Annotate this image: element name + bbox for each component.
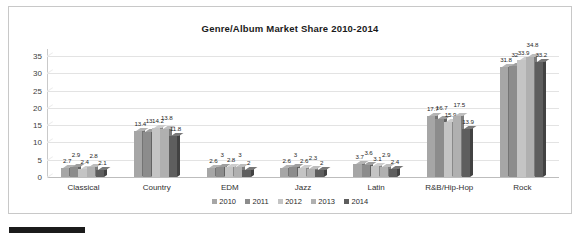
bar-2013-rock[interactable] xyxy=(526,57,534,177)
legend-item-2011[interactable]: 2011 xyxy=(245,197,269,206)
bar-2013-jazz[interactable] xyxy=(307,169,315,177)
legend-item-2013[interactable]: 2013 xyxy=(311,197,335,206)
bar-2012-rock[interactable] xyxy=(517,60,525,177)
legend-swatch-2010 xyxy=(212,199,217,204)
bar-front-face xyxy=(143,132,151,177)
bar-2011-rock[interactable] xyxy=(509,66,517,177)
bar-group-r-b-hip-hop: 17.716.715.917.513.9R&B/Hip-Hop xyxy=(413,49,486,177)
data-label-2011-jazz: 3 xyxy=(294,151,297,158)
bar-2011-latin[interactable] xyxy=(362,165,370,177)
bar-2014-edm[interactable] xyxy=(242,170,250,177)
bar-2011-jazz[interactable] xyxy=(289,167,297,177)
data-label-2010-rock: 31.8 xyxy=(500,56,512,63)
y-tick-label-30: 30 xyxy=(33,69,42,78)
bar-2010-latin[interactable] xyxy=(353,164,361,177)
data-label-2014-country: 11.8 xyxy=(170,125,181,132)
data-label-2012-edm: 2.8 xyxy=(227,156,235,163)
bar-front-face xyxy=(70,167,78,177)
legend-swatch-2011 xyxy=(245,199,250,204)
bar-2012-country[interactable] xyxy=(152,128,160,177)
bar-2011-edm[interactable] xyxy=(216,167,224,177)
data-label-2013-r-b-hip-hop: 17.5 xyxy=(453,101,465,108)
bar-2011-classical[interactable] xyxy=(70,167,78,177)
bar-2013-latin[interactable] xyxy=(380,167,388,177)
bottom-black-bar-artifact xyxy=(9,227,85,233)
data-label-2010-edm: 2.6 xyxy=(209,157,217,164)
bar-front-face xyxy=(280,168,288,177)
bar-front-face xyxy=(78,169,86,177)
bar-2014-country[interactable] xyxy=(169,136,177,177)
data-label-2014-r-b-hip-hop: 13.9 xyxy=(462,118,474,125)
bar-front-face xyxy=(380,167,388,177)
legend-item-2010[interactable]: 2010 xyxy=(212,197,236,206)
bar-2013-edm[interactable] xyxy=(234,167,242,177)
bar-group-edm: 2.632.832EDM xyxy=(193,49,266,177)
bars: 3.73.63.12.92.4 xyxy=(340,49,413,177)
bar-2012-jazz[interactable] xyxy=(298,168,306,177)
bar-2010-country[interactable] xyxy=(134,131,142,177)
bar-2012-classical[interactable] xyxy=(78,169,86,177)
data-label-2010-jazz: 2.6 xyxy=(282,157,290,164)
bar-2010-rock[interactable] xyxy=(500,67,508,177)
x-axis-label-jazz: Jazz xyxy=(295,183,311,192)
legend-label-2011: 2011 xyxy=(252,197,268,206)
bar-front-face xyxy=(234,167,242,177)
bar-2011-r-b-hip-hop[interactable] xyxy=(435,119,443,177)
bar-2010-edm[interactable] xyxy=(207,168,215,177)
bar-front-face xyxy=(169,136,177,177)
x-axis-label-r-b-hip-hop: R&B/Hip-Hop xyxy=(425,183,473,192)
bar-group-classical: 2.72.92.42.82.1Classical xyxy=(47,49,120,177)
bar-front-face xyxy=(87,167,95,177)
data-label-2010-country: 13.4 xyxy=(134,120,146,127)
legend-label-2013: 2013 xyxy=(318,197,335,206)
bars: 2.632.62.32 xyxy=(266,49,339,177)
bars: 13.41314.213.811.8 xyxy=(120,49,193,177)
bar-front-face xyxy=(517,60,525,177)
y-tick-label-15: 15 xyxy=(33,121,42,130)
bar-2014-r-b-hip-hop[interactable] xyxy=(462,129,470,177)
bar-front-face xyxy=(96,170,104,177)
bar-front-face xyxy=(315,170,323,177)
data-label-2013-jazz: 2.3 xyxy=(309,154,317,161)
bar-2014-jazz[interactable] xyxy=(315,170,323,177)
bar-front-face xyxy=(535,62,543,177)
legend-swatch-2012 xyxy=(278,199,283,204)
bar-2011-country[interactable] xyxy=(143,132,151,177)
chart-legend: 20102011201220132014 xyxy=(9,197,571,206)
bar-front-face xyxy=(526,57,534,177)
bar-2010-jazz[interactable] xyxy=(280,168,288,177)
bar-2010-r-b-hip-hop[interactable] xyxy=(427,116,435,177)
bar-front-face xyxy=(207,168,215,177)
data-label-2010-latin: 3.7 xyxy=(356,153,364,160)
bar-2013-r-b-hip-hop[interactable] xyxy=(453,116,461,177)
bar-front-face xyxy=(462,129,470,177)
bars: 2.632.832 xyxy=(193,49,266,177)
bar-front-face xyxy=(444,122,452,177)
bar-2012-latin[interactable] xyxy=(371,166,379,177)
legend-item-2012[interactable]: 2012 xyxy=(278,197,302,206)
bar-2012-r-b-hip-hop[interactable] xyxy=(444,122,452,177)
data-label-2013-latin: 2.9 xyxy=(382,151,390,158)
bar-group-jazz: 2.632.62.32Jazz xyxy=(266,49,339,177)
bar-2014-classical[interactable] xyxy=(96,170,104,177)
data-label-2011-classical: 2.9 xyxy=(72,151,80,158)
bar-front-face xyxy=(371,166,379,177)
data-label-2014-latin: 2.4 xyxy=(391,158,399,165)
data-label-2013-country: 13.8 xyxy=(161,114,173,121)
bar-2012-edm[interactable] xyxy=(225,167,233,177)
legend-label-2012: 2012 xyxy=(285,197,302,206)
legend-item-2014[interactable]: 2014 xyxy=(344,197,368,206)
legend-label-2014: 2014 xyxy=(352,197,369,206)
bar-2013-country[interactable] xyxy=(160,129,168,177)
data-label-2014-jazz: 2 xyxy=(320,159,323,166)
bar-front-face xyxy=(298,168,306,177)
bar-2013-classical[interactable] xyxy=(87,167,95,177)
bar-2010-classical[interactable] xyxy=(61,168,69,177)
bar-2014-rock[interactable] xyxy=(535,62,543,177)
legend-swatch-2013 xyxy=(311,199,316,204)
data-label-2013-classical: 2.8 xyxy=(89,152,97,159)
x-axis-label-latin: Latin xyxy=(367,183,384,192)
data-label-2012-classical: 2.4 xyxy=(81,158,89,165)
bar-2014-latin[interactable] xyxy=(389,169,397,177)
bar-front-face xyxy=(160,129,168,177)
